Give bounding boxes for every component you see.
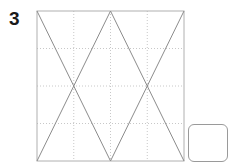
figure-grid-group xyxy=(37,11,184,161)
worksheet-problem: 3 xyxy=(0,0,243,165)
answer-input-box[interactable] xyxy=(188,124,228,162)
